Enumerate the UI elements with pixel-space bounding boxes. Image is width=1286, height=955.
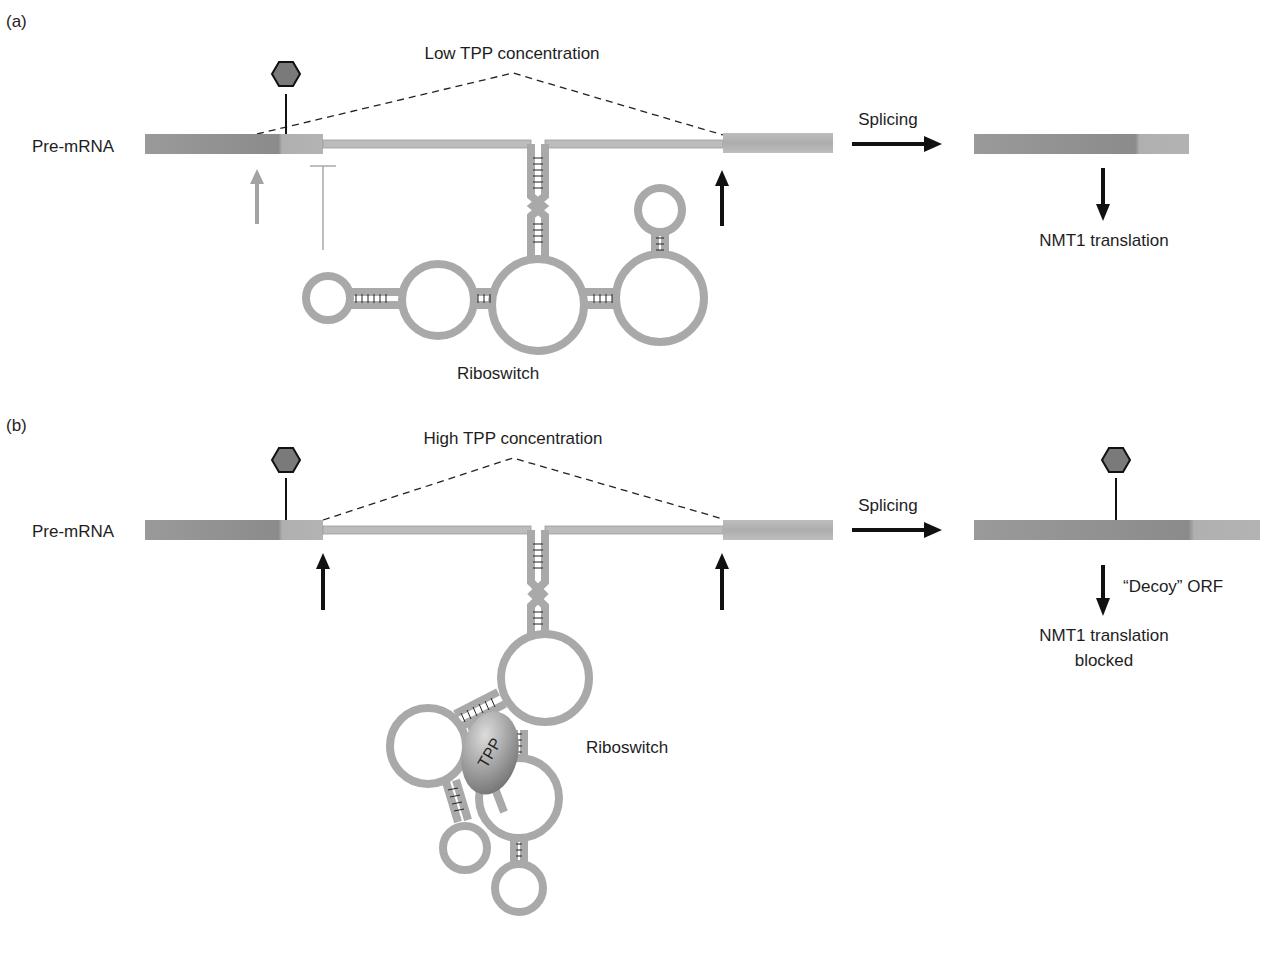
splice-site-arrow-inactive-icon-a — [250, 169, 264, 224]
splicing-label-a: Splicing — [858, 110, 918, 129]
riboswitch-label-b: Riboswitch — [586, 738, 668, 757]
splice-path-dashed-b — [323, 458, 723, 520]
panel-b-label: (b) — [6, 416, 27, 435]
splicing-label-b: Splicing — [858, 496, 918, 515]
clipped-caption-band — [0, 944, 1286, 955]
splice-site-arrow-icon-b-left — [316, 553, 330, 610]
outcome-label-b-line2: blocked — [1075, 651, 1134, 670]
panel-a: (a) Low TPP concentration Pre-mRNA — [6, 12, 1189, 383]
outcome-label-b-line1: NMT1 translation — [1039, 626, 1168, 645]
splicing-arrow-icon-a — [852, 136, 942, 152]
riboswitch-figure: (a) Low TPP concentration Pre-mRNA — [0, 0, 1286, 955]
intron-strand-b — [323, 526, 723, 534]
spliced-mrna-a — [974, 134, 1189, 154]
intron-strand-a — [323, 140, 723, 148]
pre-mrna-label-a: Pre-mRNA — [32, 137, 115, 156]
splice-site-arrow-icon-a — [715, 170, 729, 226]
condition-label-low: Low TPP concentration — [424, 44, 599, 63]
outcome-label-a: NMT1 translation — [1039, 231, 1168, 250]
riboswitch-structure-a — [306, 144, 704, 351]
translation-arrow-icon-a — [1096, 168, 1110, 221]
start-codon-hexagon-icon-b — [272, 448, 300, 520]
decoy-hexagon-icon-b — [1102, 448, 1130, 520]
exon-right-b — [723, 520, 833, 540]
condition-label-high: High TPP concentration — [424, 429, 603, 448]
exon-left-a — [145, 134, 323, 154]
spliced-mrna-b — [974, 520, 1260, 540]
splicing-arrow-icon-b — [852, 522, 942, 538]
exon-right-a — [723, 133, 833, 153]
translation-arrow-icon-b — [1096, 565, 1110, 616]
splice-path-dashed-a — [257, 73, 723, 135]
decoy-orf-label: “Decoy” ORF — [1123, 577, 1223, 596]
panel-a-label: (a) — [6, 12, 27, 31]
riboswitch-label-a: Riboswitch — [457, 364, 539, 383]
start-codon-hexagon-icon-a — [272, 62, 300, 134]
splice-site-arrow-icon-b-right — [715, 553, 729, 610]
base-pair-rungs-b — [448, 544, 543, 856]
pre-mrna-label-b: Pre-mRNA — [32, 522, 115, 541]
panel-b: (b) High TPP concentration Pre-mRNA — [6, 416, 1260, 912]
exon-left-b — [145, 520, 323, 540]
inhibition-tbar-icon-a — [310, 166, 336, 250]
